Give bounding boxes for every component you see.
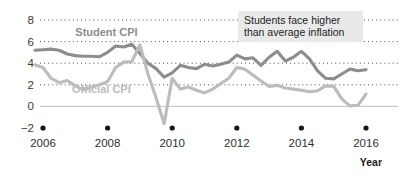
series-label-student-cpi: Student CPI xyxy=(75,26,137,38)
x-axis-tick-dot-1 xyxy=(105,125,110,130)
cut-off-title xyxy=(70,0,72,6)
y-axis-tick-label-0: 8 xyxy=(28,14,34,26)
y-axis-tick-label-1: 6 xyxy=(28,36,34,48)
x-axis-tick-dot-2 xyxy=(170,125,175,130)
x-axis-tick-label-4: 2014 xyxy=(289,137,315,149)
x-axis-tick-label-1: 2008 xyxy=(95,137,121,149)
x-axis-tick-dot-5 xyxy=(363,125,368,130)
series-line-student-cpi xyxy=(35,44,366,79)
annotation-line-1: Students face higher xyxy=(244,14,341,26)
annotation-line-2: than average inflation xyxy=(244,26,345,38)
x-axis-tick-label-5: 2016 xyxy=(353,137,379,149)
x-axis-tick-dot-0 xyxy=(40,125,45,130)
x-axis-tick-label-0: 2006 xyxy=(30,137,56,149)
x-axis-tick-label-3: 2012 xyxy=(224,137,250,149)
y-axis-tick-label-3: 2 xyxy=(28,79,34,91)
x-axis-title: Year xyxy=(360,156,382,168)
cpi-line-chart: 86420−2200620082010201220142016YearStude… xyxy=(0,0,401,178)
x-axis-tick-dot-4 xyxy=(299,125,304,130)
y-axis-tick-label-5: −2 xyxy=(21,122,34,134)
y-axis-tick-label-4: 0 xyxy=(28,100,34,112)
x-axis-tick-label-2: 2010 xyxy=(159,137,185,149)
chart-canvas: 86420−2200620082010201220142016YearStude… xyxy=(0,0,401,178)
x-axis-tick-dot-3 xyxy=(234,125,239,130)
series-label-official-cpi: Official CPI xyxy=(72,83,131,95)
y-axis-tick-label-2: 4 xyxy=(28,57,35,69)
